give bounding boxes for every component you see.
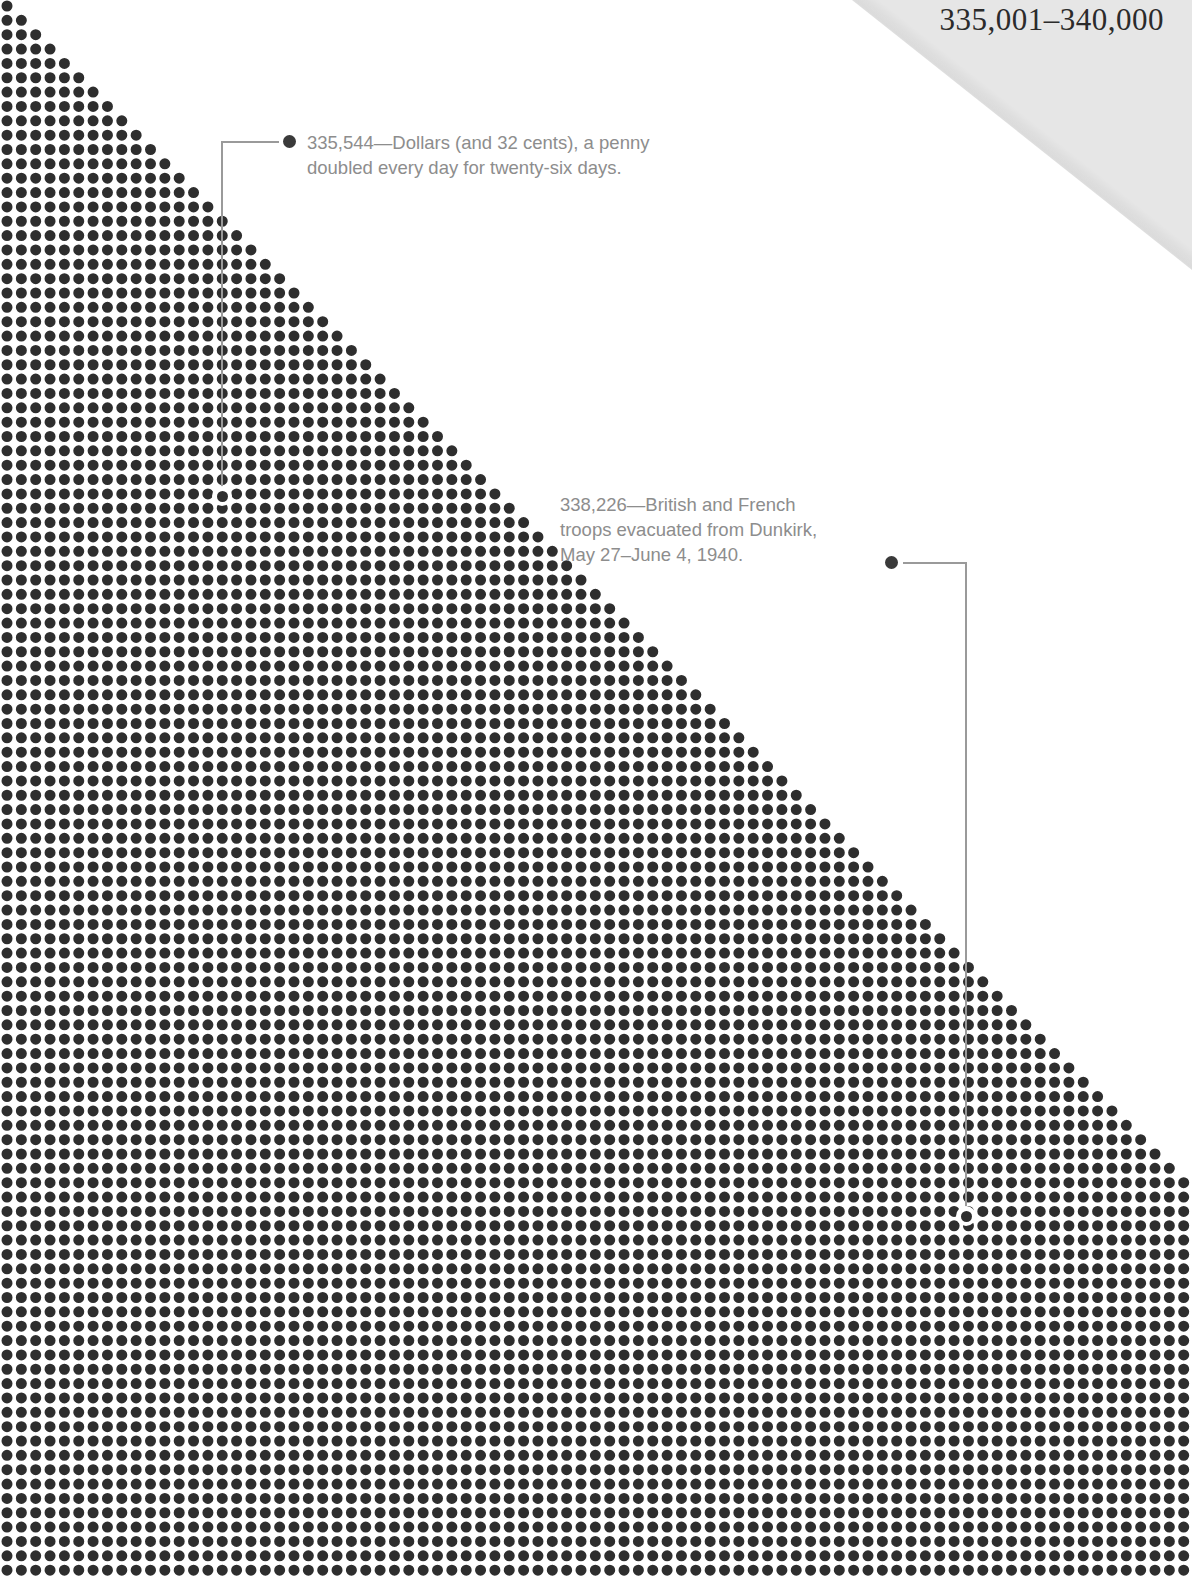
leader-line-penny-horizontal (221, 141, 279, 143)
annotation-dunkirk-evacuation: 338,226—British and French troops evacua… (560, 492, 885, 567)
annotation-penny-doubled: 335,544—Dollars (and 32 cents), a penny … (307, 130, 777, 180)
callout-bullet-dunkirk (885, 556, 898, 569)
leader-line-penny-vertical (221, 141, 223, 497)
leader-line-dunkirk-horizontal (903, 562, 967, 564)
terminus-dot-penny (217, 491, 228, 502)
dot-grid-path (2, 1, 1190, 1576)
callout-bullet-penny (283, 135, 296, 148)
page-canvas: 335,001–340,000 335,544—Dollars (and 32 … (0, 0, 1192, 1576)
dot-grid-svg (0, 0, 1192, 1576)
unit-dot-field (0, 0, 1192, 1576)
terminus-dot-dunkirk (961, 1211, 972, 1222)
leader-line-dunkirk-vertical (965, 562, 967, 1217)
